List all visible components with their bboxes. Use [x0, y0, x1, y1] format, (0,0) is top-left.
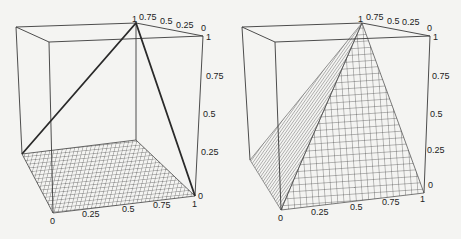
box-right-vertical [195, 36, 203, 196]
x-tick: 1 [192, 199, 197, 209]
x-tick: 0.5 [122, 204, 135, 214]
z-tick: 0.75 [206, 71, 224, 81]
box-back-edges [16, 23, 203, 36]
z-tick: 1 [206, 32, 211, 42]
x-tick: 0 [278, 213, 283, 223]
z-tick: 0 [198, 191, 203, 201]
x-tick: 0 [50, 216, 55, 226]
y-tick: 1 [132, 14, 137, 24]
right-plot: 1 0.75 0.5 0.25 0 1 0.75 0.5 0.25 0 0 0.… [242, 12, 450, 223]
z-tick: 0 [428, 180, 433, 190]
z-tick: 0.25 [427, 145, 445, 155]
x-tick: 1 [420, 194, 425, 204]
surface-plots: 1 0.75 0.5 0.25 0 1 0.75 0.5 0.25 0 0 0.… [0, 0, 461, 239]
x-tick: 0.5 [350, 202, 363, 212]
y-tick: 0 [427, 23, 432, 33]
y-tick: 1 [358, 14, 363, 24]
y-tick: 0.75 [139, 12, 157, 22]
z-tick: 0.5 [203, 109, 216, 119]
y-tick: 0.5 [160, 16, 173, 26]
y-tick: 0.25 [402, 17, 420, 27]
x-tick: 0.25 [311, 207, 329, 217]
box-left-vertical [16, 27, 22, 154]
x-tick: 0.75 [153, 200, 171, 210]
box-left-vertical [242, 27, 250, 160]
y-tick: 0.75 [366, 12, 384, 22]
z-tick: 0.5 [430, 109, 443, 119]
z-tick: 0.75 [432, 71, 450, 81]
y-tick: 0.5 [387, 16, 400, 26]
z-tick: 1 [433, 32, 438, 42]
z-tick: 0.25 [201, 147, 219, 157]
box-front-top [242, 27, 430, 42]
x-tick: 0.75 [382, 197, 400, 207]
y-tick: 0.25 [176, 20, 194, 30]
box-front-top [16, 27, 203, 42]
x-tick: 0.25 [82, 209, 100, 219]
left-plot: 1 0.75 0.5 0.25 0 1 0.75 0.5 0.25 0 0 0.… [16, 12, 224, 226]
